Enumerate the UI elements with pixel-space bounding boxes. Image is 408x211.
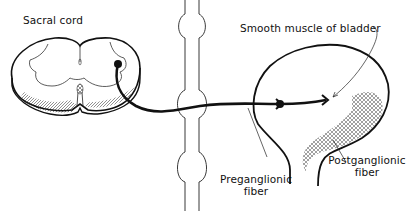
label-preganglionic-line1: Preganglionic <box>218 173 294 185</box>
label-smooth-muscle: Smooth muscle of bladder <box>240 22 381 34</box>
label-sacral-cord: Sacral cord <box>23 14 83 26</box>
label-preganglionic: Preganglionic fiber <box>218 173 294 197</box>
bladder-innervation-diagram: Sacral cord Smooth muscle of bladder Pre… <box>0 0 408 211</box>
postganglionic-fiber-path <box>276 95 328 108</box>
label-postganglionic: Postganglionic fiber <box>326 154 408 178</box>
sacral-cord-section <box>12 38 140 115</box>
label-preganglionic-line2: fiber <box>218 185 294 197</box>
label-postganglionic-line2: fiber <box>326 166 408 178</box>
smooth-muscle-leader <box>333 27 377 97</box>
label-postganglionic-line1: Postganglionic <box>326 154 408 166</box>
